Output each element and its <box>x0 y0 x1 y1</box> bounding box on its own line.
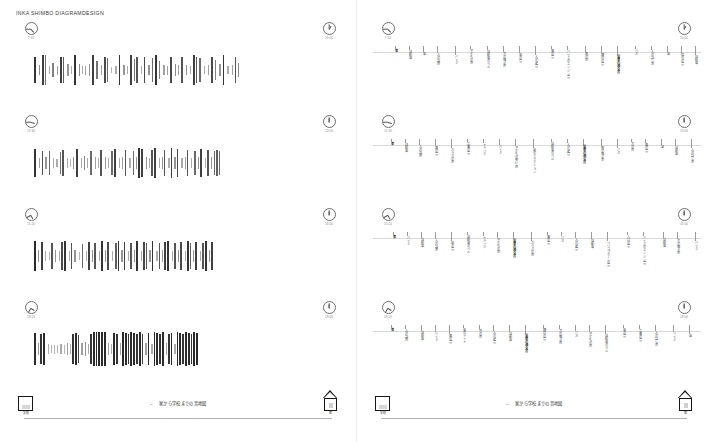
annotation-item: 踏切の音 <box>599 46 604 66</box>
sound-bar <box>122 157 123 169</box>
clock-icon <box>382 22 395 35</box>
clock-left-row-1: 7:30 <box>375 22 401 40</box>
sound-bar <box>171 148 173 178</box>
clock-left-row-2: 12:30 <box>18 115 44 133</box>
annotation-label: 風の音 <box>448 334 451 343</box>
annotation-item: 車 <box>389 325 394 331</box>
sound-bar <box>70 159 71 167</box>
sound-bar <box>141 149 143 177</box>
annotation-label: バス <box>634 49 637 55</box>
sound-bar <box>190 66 191 74</box>
annotation-label: 自転車のベル <box>486 50 489 69</box>
clock-icon <box>382 208 395 221</box>
sound-bar <box>195 242 197 270</box>
sound-bar <box>216 150 218 176</box>
sound-bar <box>125 150 127 176</box>
annotation-item: 犬の鳴き声 <box>501 46 506 67</box>
sound-bar <box>223 55 225 85</box>
annotation-item: 踏切の音 <box>541 325 546 340</box>
sound-bar <box>191 158 192 168</box>
annotation-item: バス <box>633 46 638 55</box>
sound-bar <box>74 55 76 85</box>
annotation-label: 風の音 <box>434 146 437 155</box>
annotation-item: 人の話声 <box>435 46 440 66</box>
sound-bar <box>112 251 113 261</box>
sound-bar <box>199 58 201 82</box>
sound-bar <box>108 343 109 355</box>
clock-icon <box>25 208 38 221</box>
annotation-label: 鳥の鳴き声 <box>600 146 603 162</box>
sound-bar <box>51 345 52 353</box>
annotation-item: 電車の通る音 <box>615 46 620 73</box>
sound-bar <box>34 149 36 177</box>
sound-bar <box>90 151 92 175</box>
annotation-label: トラック <box>482 143 485 155</box>
annotation-field-row-3: 車バイク自転車人の話声車の音自転車のベルトラック子どもの声電車の通る音カラスの声… <box>373 232 701 294</box>
annotation-tick <box>689 325 690 334</box>
annotation-label: 人の足音 <box>534 55 537 67</box>
sound-bar <box>64 345 65 354</box>
sound-bar <box>119 158 120 168</box>
clock-minute-hand <box>684 24 685 29</box>
sound-bar <box>128 334 130 364</box>
annotation-label: バイク <box>672 332 675 341</box>
annotation-label: 電車の通る音 <box>582 145 585 164</box>
clock-time-label: 19:00 <box>316 315 342 319</box>
sound-barcode-row-3 <box>34 238 322 274</box>
clock-icon <box>25 22 38 35</box>
sound-bar <box>59 251 60 261</box>
diagram-poster: INKA SHIMBO DIAGRAMDESIGN 7:3010:00 12:3… <box>0 0 711 442</box>
clock-minute-hand <box>684 117 685 122</box>
annotation-label: 鳥の声 <box>584 52 587 61</box>
annotation-label: 自転車 <box>408 50 411 59</box>
sound-bar <box>90 334 92 364</box>
sound-bar <box>62 150 64 176</box>
annotation-tick <box>673 325 674 332</box>
sound-bar <box>181 158 182 168</box>
sound-bar <box>53 158 54 168</box>
clock-left-row-3: 15:20 <box>18 208 44 226</box>
clock-right-row-3: 16:00 <box>316 208 342 226</box>
sound-bar <box>72 334 74 364</box>
caption-text: 家から学校までの音地図 <box>515 401 563 406</box>
annotation-item: 自転車 <box>419 325 424 340</box>
sound-bar <box>202 243 204 269</box>
clock-time-label: 16:00 <box>316 222 342 226</box>
annotation-item: 人の話声 <box>417 139 422 157</box>
sound-bar <box>92 250 93 262</box>
annotation-label: 自動車 <box>508 332 511 341</box>
sound-bar <box>232 65 233 75</box>
sound-barcode-row-1 <box>34 52 322 88</box>
clock-minute-hand <box>329 117 330 122</box>
sound-bar <box>136 57 138 83</box>
sound-bar <box>93 332 95 366</box>
annotation-field-row-4: 車人の話声自転車バイク風の音車のライト虫の声人の足音自動車電車の通る音踏切の音犬… <box>373 325 701 387</box>
annotation-label: 車のクラクション <box>532 148 535 173</box>
clock-icon <box>678 115 691 128</box>
sound-bar <box>123 65 124 75</box>
annotation-item: 車のクラクション <box>531 139 536 172</box>
annotation-item: 電車の通る音 <box>523 325 528 352</box>
annotation-item: 犬の声 <box>629 139 634 151</box>
clock-time-label: 19:00 <box>671 315 697 319</box>
sound-bar <box>52 63 54 77</box>
clock-minute-hand <box>26 122 31 123</box>
sound-bar <box>200 251 201 261</box>
annotation-item: 車のライト <box>461 325 466 344</box>
sound-bar <box>43 333 45 365</box>
clock-time-label: 16:00 <box>671 222 697 226</box>
sound-bar <box>133 333 135 365</box>
sound-bar <box>38 250 39 262</box>
sound-bar <box>127 66 128 74</box>
annotation-label: 人の話声 <box>436 53 439 65</box>
clock-right-row-1: 10:00 <box>671 22 697 40</box>
clock-icon <box>25 115 38 128</box>
annotation-item: 自転車 <box>407 46 412 60</box>
sound-bar <box>156 251 157 261</box>
annotation-item: 工事の音 <box>465 139 470 154</box>
sound-bar <box>149 158 150 168</box>
sound-bar <box>57 66 58 75</box>
caption-right: ←家から学校までの音地図 <box>357 400 711 406</box>
axis-line <box>381 418 687 419</box>
annotation-label: 車 <box>394 49 397 52</box>
